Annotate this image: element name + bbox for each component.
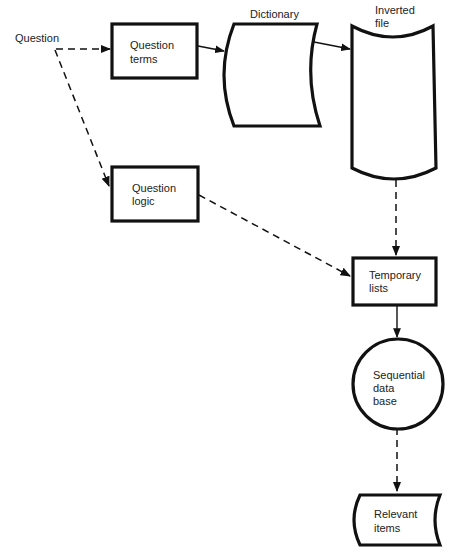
inverted-file-caption-line2: file <box>375 17 389 29</box>
edge-terms-to-dictionary <box>198 46 224 51</box>
question-terms-line2: terms <box>130 53 158 65</box>
question-terms-line1: Question <box>130 39 174 51</box>
relevant-items-line2: items <box>374 522 401 534</box>
dictionary-node: Dictionary <box>224 8 320 126</box>
temporary-lists-line1: Temporary <box>369 269 421 281</box>
temporary-lists-line2: lists <box>369 282 388 294</box>
edge-question-to-logic <box>55 50 109 186</box>
sequential-db-line3: base <box>373 395 397 407</box>
inverted-file-caption-line1: Inverted <box>375 4 415 16</box>
question-logic-node: Question logic <box>112 167 198 221</box>
question-logic-line1: Question <box>132 182 176 194</box>
flowchart-canvas: Question Question terms Dictionary Inver… <box>0 0 453 558</box>
inverted-file-node: Inverted file <box>352 4 436 179</box>
dictionary-caption: Dictionary <box>250 8 299 20</box>
sequential-db-line2: data <box>373 382 395 394</box>
sequential-db-line1: Sequential <box>373 369 425 381</box>
question-label: Question <box>15 32 59 44</box>
question-logic-line2: logic <box>132 195 155 207</box>
temporary-lists-node: Temporary lists <box>353 258 436 305</box>
question-terms-node: Question terms <box>112 24 197 78</box>
relevant-items-line1: Relevant <box>374 508 417 520</box>
edge-dictionary-to-inverted <box>314 42 350 49</box>
edge-logic-to-temporary <box>199 195 350 276</box>
relevant-items-node: Relevant items <box>354 495 440 545</box>
sequential-db-node: Sequential data base <box>353 339 443 429</box>
